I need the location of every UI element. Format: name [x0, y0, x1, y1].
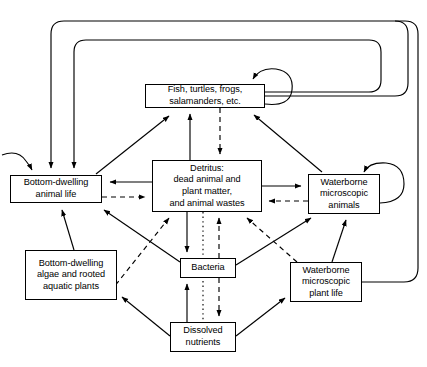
node-bottom-dwelling-algae-and-rooted-aquatic-plants: Bottom-dwelling algae and rooted aquatic… — [25, 250, 117, 300]
edge-bottom-plants-to-detritus — [110, 218, 169, 292]
aquatic-food-web-diagram: Fish, turtles, frogs, salamanders, etc. … — [0, 0, 427, 367]
node-waterborne-microscopic-animals: Waterborne microscopic animals — [308, 174, 380, 214]
edge-outer-right-loop — [362, 21, 418, 282]
node-bottom-dwelling-animal-life: Bottom-dwelling animal life — [10, 175, 102, 203]
node-waterborne-microscopic-plant-life: Waterborne microscopic plant life — [290, 262, 362, 302]
edge-waterborne-plants-to-waterborne-animals — [332, 220, 346, 262]
node-bacteria: Bacteria — [180, 258, 236, 278]
node-dissolved-nutrients: Dissolved nutrients — [170, 322, 236, 352]
edge-dissolved-nutrients-to-waterborne-plants — [236, 298, 285, 336]
edge-waterborne-plants-to-detritus — [247, 218, 297, 262]
edge-bottom-animals-self-loop — [2, 153, 32, 170]
edge-dissolved-nutrients-to-bottom-plants — [122, 297, 170, 336]
edge-waterborne-animals-to-fish — [254, 115, 322, 172]
node-detritus: Detritus: dead animal and plant matter, … — [152, 160, 262, 212]
edge-bottom-plants-to-bottom-animals — [62, 210, 74, 250]
node-fish: Fish, turtles, frogs, salamanders, etc. — [145, 84, 265, 108]
